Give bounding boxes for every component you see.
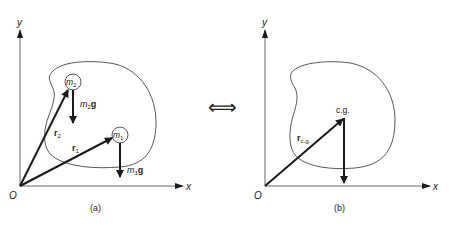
rigid-body-outline-b: [290, 62, 395, 169]
vector-r1-label: r1: [72, 143, 80, 154]
rigid-body-outline: [45, 62, 156, 168]
y-axis-label-b: y: [261, 17, 268, 28]
weight-m1g-label: m1g: [127, 165, 143, 176]
vector-rcg-label: rc.g.: [297, 133, 311, 144]
origin-label: O: [9, 190, 17, 201]
equivalence-symbol: ⟺: [208, 96, 237, 118]
panel-a: y x O m2 m2g m1 m1g r2 r1: [9, 17, 192, 213]
caption-a: (a): [90, 203, 101, 213]
x-axis-label-b: x: [432, 181, 439, 192]
caption-b: (b): [334, 203, 345, 213]
panel-b: y x O rc.g. c.g. (b): [254, 17, 439, 213]
cg-label: c.g.: [336, 105, 350, 115]
vector-rcg: [265, 119, 343, 186]
rigid-body-gravity-diagram: y x O m2 m2g m1 m1g r2 r1: [0, 0, 453, 228]
weight-m2g-label: m2g: [80, 99, 96, 110]
y-axis-label: y: [16, 17, 23, 28]
vector-r1: [20, 138, 112, 186]
x-axis-label: x: [185, 181, 192, 192]
origin-label-b: O: [254, 190, 262, 201]
vector-r2-label: r2: [54, 128, 62, 139]
